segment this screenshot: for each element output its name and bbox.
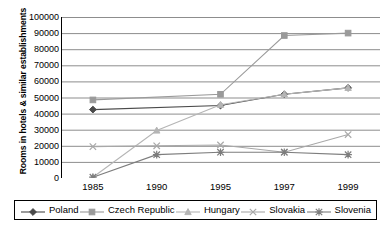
- data-point-square: [90, 97, 96, 103]
- legend-label: Slovakia: [269, 204, 305, 216]
- x-tick-label: 1985: [63, 181, 123, 193]
- y-tick-label: 90000: [13, 28, 59, 38]
- legend-label: Poland: [49, 204, 79, 216]
- legend-item-poland[interactable]: Poland: [20, 204, 79, 216]
- y-tick-label: 20000: [13, 141, 59, 151]
- x-tick-label: 1999: [318, 181, 378, 193]
- data-point-square: [282, 33, 288, 39]
- y-tick-label: 30000: [13, 125, 59, 135]
- y-tick-label: 70000: [13, 60, 59, 70]
- legend-label: Slovenia: [335, 204, 371, 216]
- legend-label: Hungary: [204, 204, 240, 216]
- data-point-asterisk: [344, 151, 352, 159]
- legend-key-asterisk-icon: [306, 204, 332, 216]
- legend-item-slovenia[interactable]: Slovenia: [306, 204, 371, 216]
- y-tick-label: 40000: [13, 109, 59, 119]
- legend-key-square-icon: [79, 204, 105, 216]
- y-tick-label: 0: [13, 173, 59, 183]
- y-tick-label: 80000: [13, 44, 59, 54]
- y-axis-tick-labels: 0100002000030000400005000060000700008000…: [13, 11, 59, 183]
- data-point-asterisk: [281, 148, 289, 156]
- data-point-square: [89, 209, 95, 215]
- legend-key-cross-icon: [240, 204, 266, 216]
- plot-svg: [61, 17, 380, 178]
- legend-key-diamond-icon: [20, 204, 46, 216]
- plot-area: [61, 17, 380, 178]
- y-tick-label: 100000: [13, 12, 59, 22]
- chart-legend: PolandCzech RepublicHungarySlovakiaSlove…: [14, 200, 377, 220]
- legend-item-slovakia[interactable]: Slovakia: [240, 204, 305, 216]
- x-tick-label: 1997: [254, 181, 314, 193]
- data-point-square: [218, 91, 224, 97]
- data-point-asterisk: [153, 151, 161, 159]
- legend-key-triangle-icon: [175, 204, 201, 216]
- legend-item-czech-republic[interactable]: Czech Republic: [79, 204, 175, 216]
- y-tick-label: 60000: [13, 76, 59, 86]
- y-tick-label: 10000: [13, 157, 59, 167]
- y-tick-label: 50000: [13, 93, 59, 103]
- data-point-diamond: [90, 106, 97, 113]
- x-tick-label: 1995: [191, 181, 251, 193]
- data-point-cross: [345, 131, 351, 137]
- data-point-asterisk: [217, 148, 225, 156]
- series-line-czech-republic: [93, 33, 348, 100]
- line-chart: Rooms in hotels & similar establishments…: [0, 0, 391, 228]
- legend-label: Czech Republic: [108, 204, 175, 216]
- legend-item-hungary[interactable]: Hungary: [175, 204, 240, 216]
- data-point-asterisk: [315, 208, 323, 216]
- data-point-square: [345, 30, 351, 36]
- x-axis-tick-labels: 19851990199519971999: [61, 181, 380, 195]
- x-tick-label: 1990: [127, 181, 187, 193]
- data-point-diamond: [30, 209, 37, 216]
